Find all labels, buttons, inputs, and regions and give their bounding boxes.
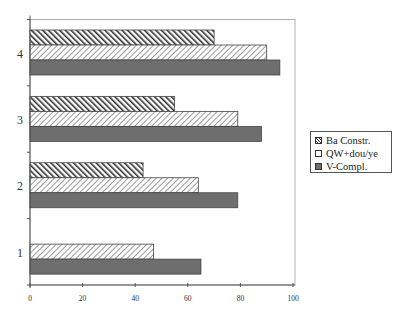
x-tick-label: 100 <box>287 294 299 303</box>
x-tick-label: 20 <box>79 294 87 303</box>
bar-v-compl--cat-3 <box>30 126 261 141</box>
bar-qw-dou-ye-cat-3 <box>30 111 238 126</box>
x-tick-label: 40 <box>131 294 139 303</box>
bar-ba-constr--cat-4 <box>30 30 214 45</box>
y-tick-label: 2 <box>17 179 23 193</box>
bar-qw-dou-ye-cat-2 <box>30 178 198 193</box>
bar-v-compl--cat-1 <box>30 259 201 274</box>
bar-v-compl--cat-2 <box>30 193 238 208</box>
y-tick-label: 4 <box>17 47 23 61</box>
legend-item-v-compl: V-Compl. <box>315 160 391 173</box>
x-tick-label: 0 <box>28 294 32 303</box>
y-tick-label: 3 <box>17 113 23 127</box>
y-tick-label: 1 <box>17 246 23 260</box>
legend-swatch-solid-icon <box>315 163 322 170</box>
legend-item-qw: QW+dou/ye <box>315 147 391 160</box>
bar-qw-dou-ye-cat-1 <box>30 244 154 259</box>
bars-group <box>30 30 280 274</box>
legend-item-ba-constr: Ba Constr. <box>315 134 391 147</box>
legend-label: Ba Constr. <box>326 135 370 146</box>
legend-label: V-Compl. <box>326 161 367 172</box>
bar-ba-constr--cat-2 <box>30 163 143 178</box>
x-tick-label: 80 <box>237 294 245 303</box>
x-tick-label: 60 <box>184 294 192 303</box>
legend-swatch-light-icon <box>315 150 322 157</box>
legend: Ba Constr. QW+dou/ye V-Compl. <box>310 131 392 173</box>
bar-ba-constr--cat-3 <box>30 96 175 111</box>
bar-qw-dou-ye-cat-4 <box>30 45 267 60</box>
legend-label: QW+dou/ye <box>326 148 378 159</box>
legend-swatch-hatched-icon <box>315 137 322 144</box>
bar-v-compl--cat-4 <box>30 60 280 75</box>
